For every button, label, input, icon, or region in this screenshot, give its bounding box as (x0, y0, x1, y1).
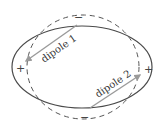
minus-sign-bottom: − (80, 111, 89, 124)
dashed-circle (27, 15, 139, 119)
minus-sign-top: − (74, 11, 83, 24)
solid-ellipse (12, 26, 152, 108)
plus-sign-left: + (16, 62, 25, 75)
dipole-diagram: dipole 1 dipole 2 − − + + (0, 0, 165, 132)
plus-sign-right: + (144, 63, 153, 76)
